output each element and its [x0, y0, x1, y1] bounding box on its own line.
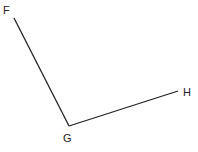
segment-gh [69, 91, 178, 126]
point-label-g: G [63, 132, 72, 144]
angle-diagram: F G H [0, 0, 198, 152]
point-label-f: F [3, 4, 10, 16]
segment-fg [14, 18, 69, 126]
point-label-h: H [183, 86, 191, 98]
